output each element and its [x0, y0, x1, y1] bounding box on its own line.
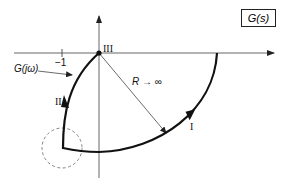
transfer-function-box: G(s) — [241, 9, 276, 27]
label-g-jw: G(jω) — [14, 64, 38, 74]
origin-point — [96, 50, 101, 55]
label-region-II: II — [55, 97, 62, 107]
label-minus-one: −1 — [55, 58, 66, 68]
label-radius: R → ∞ — [132, 77, 162, 87]
transfer-function-label: G(s) — [248, 12, 269, 24]
g-jw-pointer — [38, 71, 72, 75]
radius-arrow — [99, 53, 166, 133]
nyquist-diagram — [0, 0, 282, 181]
label-region-III: III — [103, 44, 113, 54]
label-region-I: I — [190, 122, 193, 132]
arrow-segment-I — [185, 109, 196, 120]
